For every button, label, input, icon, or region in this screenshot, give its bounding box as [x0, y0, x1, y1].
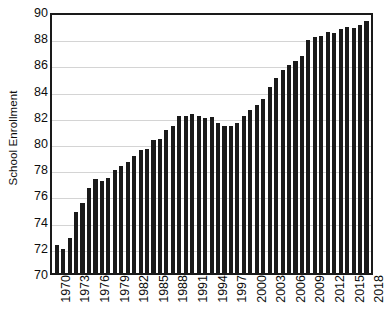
- bar: [268, 87, 272, 273]
- bar-series: [52, 15, 371, 273]
- y-tick-label: 72: [34, 242, 48, 256]
- plot-area: [50, 13, 373, 275]
- bar: [203, 118, 207, 273]
- bar: [113, 170, 117, 273]
- bar: [313, 37, 317, 273]
- x-tick-label: 2012: [334, 275, 347, 303]
- bar: [87, 188, 91, 273]
- bar: [293, 61, 297, 273]
- bar: [274, 78, 278, 273]
- bar: [190, 114, 194, 273]
- y-tick-label: 76: [34, 189, 48, 203]
- bar: [177, 116, 181, 273]
- bar: [61, 249, 65, 274]
- y-tick-label: 86: [34, 58, 48, 72]
- bar: [229, 126, 233, 273]
- bar: [184, 116, 188, 273]
- bar: [281, 70, 285, 273]
- x-tick-label: 1991: [197, 275, 210, 303]
- y-tick-label: 78: [34, 163, 48, 177]
- bar: [151, 140, 155, 273]
- bar: [93, 179, 97, 273]
- bar: [139, 150, 143, 273]
- x-tick-label: 1976: [99, 275, 112, 303]
- x-tick-label: 2006: [295, 275, 308, 303]
- bar: [255, 105, 259, 273]
- y-tick-label: 88: [34, 32, 48, 46]
- bar: [287, 65, 291, 273]
- x-tick-label: 1997: [236, 275, 249, 303]
- bar: [100, 181, 104, 273]
- bar: [106, 178, 110, 273]
- bar: [339, 29, 343, 273]
- x-tick-label: 1970: [60, 275, 73, 303]
- x-tick-label: 2015: [354, 275, 367, 303]
- x-tick-label: 1985: [158, 275, 171, 303]
- x-tick-label: 2003: [275, 275, 288, 303]
- bar: [326, 32, 330, 273]
- bar: [216, 123, 220, 273]
- bar: [145, 149, 149, 273]
- x-tick-label: 1982: [138, 275, 151, 303]
- bar: [158, 139, 162, 273]
- bar: [55, 245, 59, 273]
- bar: [74, 212, 78, 273]
- bar: [261, 99, 265, 273]
- bar: [345, 27, 349, 273]
- y-axis-title-text: School Enrollment: [7, 90, 19, 185]
- y-tick-label: 70: [34, 268, 48, 282]
- bar-slot: [363, 15, 369, 273]
- x-tick-label: 2000: [256, 275, 269, 303]
- bar: [80, 203, 84, 273]
- bar: [358, 25, 362, 273]
- bar: [235, 123, 239, 273]
- y-tick-label: 82: [34, 111, 48, 125]
- bar: [222, 126, 226, 273]
- bar: [164, 130, 168, 273]
- bar: [210, 117, 214, 273]
- x-tick-label: 1994: [217, 275, 230, 303]
- y-axis-tick-labels: 7072747678808284868890: [24, 13, 48, 275]
- x-tick-label: 1973: [79, 275, 92, 303]
- bar: [126, 162, 130, 273]
- y-tick-label: 90: [34, 6, 48, 20]
- bar: [197, 116, 201, 273]
- bar: [300, 56, 304, 273]
- x-tick-label: 1979: [119, 275, 132, 303]
- x-tick-label: 2018: [373, 275, 385, 303]
- bar: [248, 110, 252, 273]
- bar: [119, 166, 123, 273]
- bar: [132, 156, 136, 273]
- y-tick-label: 80: [34, 137, 48, 151]
- bar: [171, 126, 175, 273]
- y-tick-label: 74: [34, 216, 48, 230]
- bar: [364, 21, 368, 273]
- bar: [306, 40, 310, 273]
- y-tick-label: 84: [34, 85, 48, 99]
- y-axis-title: School Enrollment: [0, 0, 26, 275]
- bar: [319, 36, 323, 273]
- x-tick-label: 1988: [177, 275, 190, 303]
- bar: [352, 28, 356, 273]
- bar: [242, 116, 246, 273]
- x-tick-label: 2009: [314, 275, 327, 303]
- x-axis-tick-labels: 1970197319761979198219851988199119941997…: [50, 275, 373, 335]
- bar-chart: School Enrollment 7072747678808284868890…: [0, 0, 385, 335]
- bar: [68, 238, 72, 273]
- bar: [332, 33, 336, 273]
